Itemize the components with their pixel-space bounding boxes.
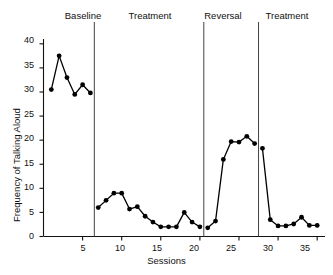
data-point bbox=[111, 191, 116, 196]
series-line-segment-3 bbox=[208, 136, 255, 228]
data-point bbox=[151, 220, 156, 225]
data-point bbox=[174, 224, 179, 229]
data-series-talking-aloud bbox=[49, 53, 320, 230]
series-line-segment-4 bbox=[262, 148, 317, 226]
data-point bbox=[252, 141, 257, 146]
x-ticks-group bbox=[83, 237, 318, 241]
y-ticks-group bbox=[40, 44, 44, 237]
data-point bbox=[307, 223, 312, 228]
data-point bbox=[158, 224, 163, 229]
data-point bbox=[72, 92, 77, 97]
data-point bbox=[315, 223, 320, 228]
data-point bbox=[166, 224, 171, 229]
data-point bbox=[221, 157, 226, 162]
data-point bbox=[135, 204, 140, 209]
data-point bbox=[49, 87, 54, 92]
data-point bbox=[80, 82, 85, 87]
data-point bbox=[65, 75, 70, 80]
data-point bbox=[213, 219, 218, 224]
data-point bbox=[57, 53, 62, 58]
data-point bbox=[182, 210, 187, 215]
chart-figure: Baseline Treatment Reversal Treatment 40… bbox=[0, 0, 333, 275]
series-line-segment-2 bbox=[98, 193, 200, 227]
data-point bbox=[119, 191, 124, 196]
data-point bbox=[237, 140, 242, 145]
phase-divider-lines bbox=[94, 22, 258, 237]
data-point bbox=[284, 224, 289, 229]
data-point bbox=[104, 198, 109, 203]
data-point bbox=[96, 205, 101, 210]
data-point bbox=[268, 217, 273, 222]
data-point bbox=[197, 224, 202, 229]
data-point bbox=[229, 139, 234, 144]
plot-area bbox=[0, 0, 333, 275]
data-point bbox=[260, 146, 265, 151]
data-point bbox=[291, 222, 296, 227]
data-point bbox=[205, 225, 210, 230]
data-point bbox=[88, 91, 93, 96]
data-point bbox=[244, 134, 249, 139]
data-point bbox=[190, 220, 195, 225]
data-point bbox=[127, 207, 132, 212]
data-point bbox=[276, 224, 281, 229]
data-point bbox=[299, 215, 304, 220]
axes-group bbox=[44, 39, 326, 237]
series-line-segment-1 bbox=[51, 56, 90, 95]
data-point bbox=[143, 214, 148, 219]
